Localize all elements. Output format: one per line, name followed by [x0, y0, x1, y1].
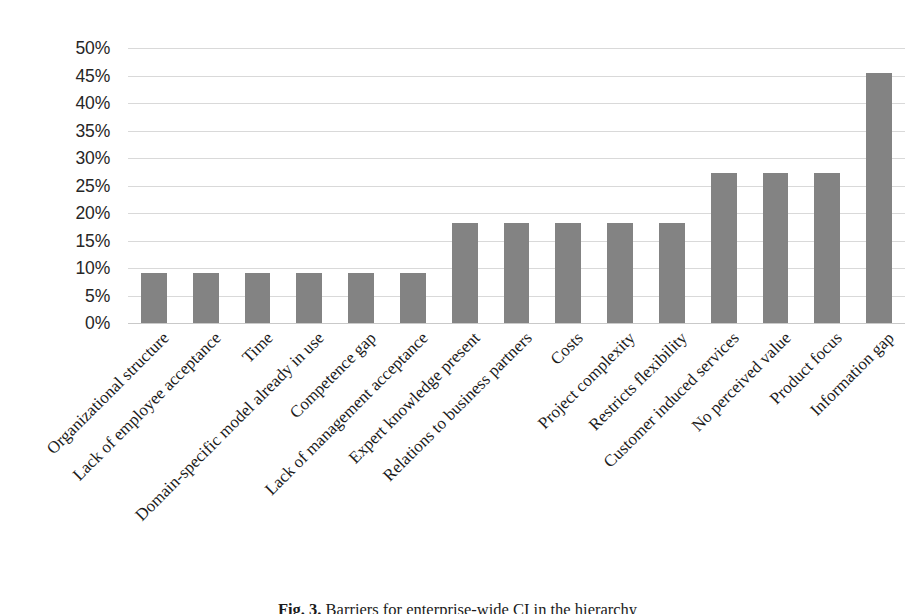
bar-slot — [439, 48, 491, 323]
bar[interactable] — [866, 73, 892, 323]
figure-caption: Fig. 3. Barriers for enterprise-wide CI … — [0, 601, 915, 614]
bar-slot — [128, 48, 180, 323]
y-axis-tick-label: 30% — [76, 148, 110, 169]
bar[interactable] — [711, 173, 737, 323]
bar[interactable] — [193, 273, 219, 323]
bar[interactable] — [607, 223, 633, 323]
bar[interactable] — [814, 173, 840, 323]
bar[interactable] — [504, 223, 530, 323]
y-axis-tick-label: 0% — [85, 313, 110, 334]
y-axis-tick-label: 35% — [76, 120, 110, 141]
bar-slot — [698, 48, 750, 323]
y-axis-tick-label: 5% — [85, 285, 110, 306]
bar[interactable] — [296, 273, 322, 323]
bar-slot — [335, 48, 387, 323]
y-axis-tick-label: 20% — [76, 203, 110, 224]
bar-slot — [387, 48, 439, 323]
bar[interactable] — [659, 223, 685, 323]
bar[interactable] — [452, 223, 478, 323]
plot-area — [128, 48, 905, 323]
x-axis-tick-label: Project complexity — [535, 329, 638, 432]
bar-slot — [646, 48, 698, 323]
bar-slot — [542, 48, 594, 323]
y-axis-tick-label: 45% — [76, 65, 110, 86]
y-axis-tick-label: 10% — [76, 258, 110, 279]
bar-slot — [594, 48, 646, 323]
bar[interactable] — [555, 223, 581, 323]
y-axis-tick-label: 40% — [76, 93, 110, 114]
y-axis: 50%45%40%35%30%25%20%15%10%5%0% — [0, 48, 120, 323]
caption-label: Fig. 3. — [278, 601, 322, 614]
bar[interactable] — [245, 273, 271, 323]
y-axis-tick-label: 15% — [76, 230, 110, 251]
bar[interactable] — [400, 273, 426, 323]
bar-slot — [801, 48, 853, 323]
x-axis-tick-label: Costs — [548, 329, 587, 368]
bar[interactable] — [348, 273, 374, 323]
bar-slot — [853, 48, 905, 323]
x-axis-labels: Organizational structureLack of employee… — [128, 323, 905, 553]
bar-slot — [283, 48, 335, 323]
caption-text: Barriers for enterprise-wide CI in the h… — [326, 601, 638, 614]
bar-slot — [232, 48, 284, 323]
x-axis-tick-label: Restricts flexibility — [585, 329, 690, 434]
bar-slot — [491, 48, 543, 323]
y-axis-tick-label: 25% — [76, 175, 110, 196]
x-axis-tick-label: Time — [239, 329, 276, 366]
y-axis-tick-label: 50% — [76, 38, 110, 59]
bar-series — [128, 48, 905, 323]
bar[interactable] — [141, 273, 167, 323]
bar[interactable] — [763, 173, 789, 323]
bar-slot — [750, 48, 802, 323]
x-axis-tick-label: Domain-specific model already in use — [132, 329, 327, 524]
bar-slot — [180, 48, 232, 323]
